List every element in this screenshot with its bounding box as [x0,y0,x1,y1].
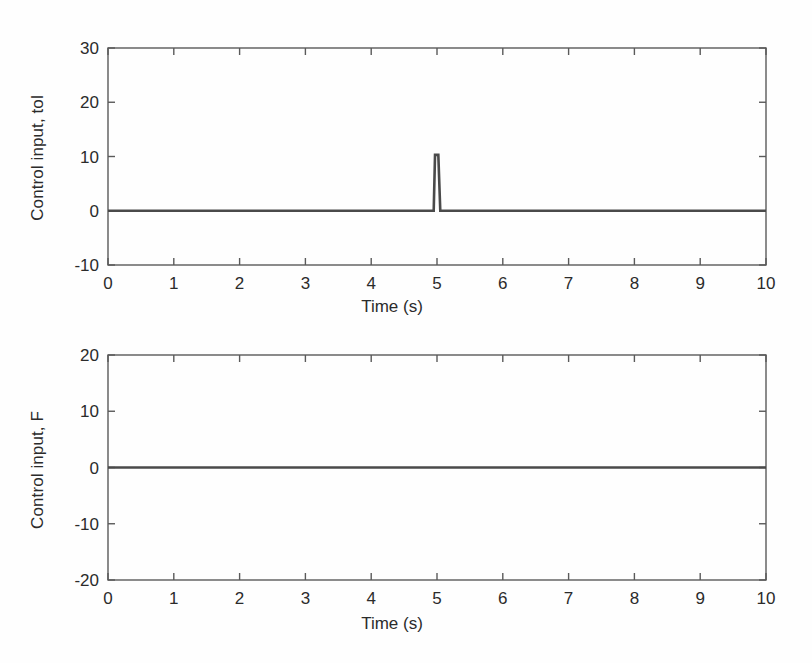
x-tick-label: 1 [169,589,178,608]
x-tick-label: 1 [169,274,178,293]
x-tick-label: 8 [630,589,639,608]
y-tick-label: 30 [80,39,99,58]
chart-panel-top: 012345678910-100102030 Control input, to… [0,0,812,331]
x-tick-label: 0 [103,274,112,293]
x-tick-label: 6 [498,274,507,293]
y-tick-label: -20 [74,571,99,590]
x-tick-label: 4 [366,589,375,608]
x-tick-label: 6 [498,589,507,608]
x-tick-label: 5 [432,274,441,293]
x-tick-label: 7 [564,589,573,608]
y-tick-label: 10 [80,148,99,167]
x-tick-label: 0 [103,589,112,608]
x-tick-label: 9 [695,589,704,608]
x-tick-label: 8 [630,274,639,293]
y-tick-label: 10 [80,402,99,421]
x-tick-label: 2 [235,274,244,293]
y-tick-label: 0 [90,459,99,478]
y-tick-label: -10 [74,256,99,275]
x-tick-label: 10 [757,274,776,293]
y-tick-label: 20 [80,346,99,365]
figure-canvas: 012345678910-100102030 Control input, to… [0,0,812,663]
plot-area-top: 012345678910-100102030 [0,0,812,331]
y-axis-label-top: Control input, tol [28,58,48,258]
x-tick-label: 5 [432,589,441,608]
x-tick-label: 7 [564,274,573,293]
y-axis-label-bottom: Control input, F [28,370,48,570]
data-line [108,155,766,211]
y-tick-label: 0 [90,202,99,221]
plot-frame [108,48,766,265]
x-axis-label-top: Time (s) [337,297,447,317]
x-tick-label: 4 [366,274,375,293]
x-tick-label: 9 [695,274,704,293]
x-tick-label: 3 [301,274,310,293]
y-tick-label: -10 [74,515,99,534]
x-axis-label-bottom: Time (s) [337,614,447,634]
x-tick-label: 3 [301,589,310,608]
x-tick-label: 10 [757,589,776,608]
y-tick-label: 20 [80,93,99,112]
x-tick-label: 2 [235,589,244,608]
